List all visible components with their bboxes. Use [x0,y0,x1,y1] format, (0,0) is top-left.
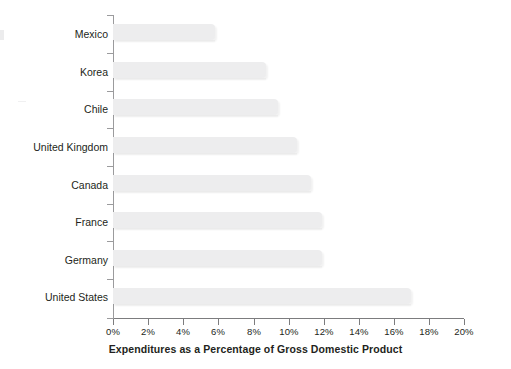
plot-area [113,16,464,318]
x-axis-tick [394,319,395,325]
bar-united-kingdom [113,137,297,153]
x-axis-tick [429,319,430,325]
x-axis-tick [183,319,184,325]
category-label-korea: Korea [3,66,108,78]
x-axis-tick [254,319,255,325]
x-axis-title: Expenditures as a Percentage of Gross Do… [0,343,511,355]
bar-korea [113,62,266,78]
x-axis-tick [218,319,219,325]
category-label-canada: Canada [3,179,108,191]
bar-germany [113,250,322,266]
bar-canada [113,175,311,191]
x-axis-tick [148,319,149,325]
x-axis-tick-label: 4% [176,326,190,337]
category-label-france: France [3,216,108,228]
category-label-chile: Chile [3,103,108,115]
bar-chile [113,99,278,115]
x-axis-tick-label: 16% [384,326,403,337]
category-label-germany: Germany [3,254,108,266]
x-axis-tick-label: 10% [279,326,298,337]
x-axis-tick [464,319,465,325]
x-axis-tick-label: 20% [454,326,473,337]
x-axis-tick-label: 12% [314,326,333,337]
bar-mexico [113,24,215,40]
bar-united-states [113,288,411,304]
x-axis-tick [324,319,325,325]
x-axis-tick-label: 8% [247,326,261,337]
x-axis-tick-label: 2% [141,326,155,337]
category-label-mexico: Mexico [3,28,108,40]
x-axis-tick-label: 6% [211,326,225,337]
category-label-united-states: United States [3,291,108,303]
x-axis-tick-label: 14% [349,326,368,337]
bar-france [113,212,322,228]
category-label-united-kingdom: United Kingdom [3,141,108,153]
x-axis-tick [289,319,290,325]
x-axis-tick-label: 18% [419,326,438,337]
category-axis-labels: Mexico Korea Chile United Kingdom Canada… [0,0,108,369]
x-axis-tick [359,319,360,325]
x-axis-tick-label: 0% [106,326,120,337]
bar-chart-figure: Mexico Korea Chile United Kingdom Canada… [0,0,511,369]
x-axis-tick [113,319,114,325]
